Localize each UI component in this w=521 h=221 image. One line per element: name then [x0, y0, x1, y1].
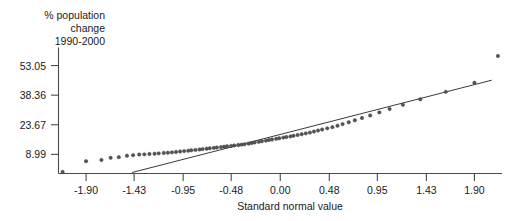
data-point [201, 147, 204, 150]
data-point [233, 144, 236, 147]
data-point [388, 107, 391, 110]
data-points [61, 54, 500, 173]
data-point [320, 128, 323, 131]
data-point [274, 137, 277, 140]
data-point [250, 141, 253, 144]
normal-probability-plot: 8.9923.6738.3653.05 -1.90-1.43-0.95-0.48… [0, 0, 521, 221]
data-point [174, 150, 177, 153]
x-axis-ticks [86, 174, 474, 182]
y-tick-label: 8.99 [26, 148, 47, 160]
x-tick-label: 0.00 [270, 184, 291, 196]
data-point [182, 149, 185, 152]
data-point [347, 121, 350, 124]
data-point [190, 149, 193, 152]
x-tick-label: 0.95 [367, 184, 388, 196]
data-point [125, 154, 128, 157]
data-point [117, 155, 120, 158]
data-point [162, 151, 165, 154]
y-axis-title-line-3: 1990-2000 [55, 35, 105, 47]
x-tick-label: 1.90 [464, 184, 485, 196]
x-tick-label: 0.48 [319, 184, 340, 196]
data-point [109, 156, 112, 159]
data-point [368, 114, 371, 117]
data-point [100, 158, 103, 161]
x-tick-label: -0.95 [171, 184, 195, 196]
data-point [84, 160, 87, 163]
x-tick-label: -1.43 [122, 184, 146, 196]
data-point [270, 138, 273, 141]
data-point [331, 125, 334, 128]
data-point [308, 131, 311, 134]
data-point [336, 124, 339, 127]
data-point [282, 136, 285, 139]
data-point [278, 137, 281, 140]
y-tick-label: 53.05 [20, 60, 46, 72]
reference-line-path [132, 80, 492, 172]
x-axis-title: Standard normal value [237, 200, 343, 212]
data-point [153, 152, 156, 155]
data-point [257, 140, 260, 143]
data-point [289, 135, 292, 138]
data-point [304, 132, 307, 135]
data-point [143, 153, 146, 156]
y-axis-ticks [51, 66, 59, 155]
y-axis-title-line-1: % population [44, 9, 105, 21]
x-tick-label: -0.48 [219, 184, 243, 196]
data-point [316, 129, 319, 132]
data-point [264, 139, 267, 142]
data-point [300, 132, 303, 135]
reference-line [132, 80, 492, 172]
data-point [178, 150, 181, 153]
data-point [138, 153, 141, 156]
y-axis-tick-labels: 8.9923.6738.3653.05 [20, 60, 46, 161]
data-point [247, 142, 250, 145]
data-point [285, 135, 288, 138]
data-point [267, 138, 270, 141]
data-point [194, 148, 197, 151]
data-point [148, 152, 151, 155]
data-point [326, 127, 329, 130]
data-point [225, 145, 228, 148]
data-point [341, 122, 344, 125]
data-point [496, 54, 499, 57]
data-point [208, 147, 211, 150]
data-point [166, 151, 169, 154]
data-point [312, 130, 315, 133]
data-point [353, 119, 356, 122]
data-point [61, 170, 64, 173]
data-point [401, 103, 404, 106]
data-point [378, 111, 381, 114]
chart-canvas: 8.9923.6738.3653.05 -1.90-1.43-0.95-0.48… [0, 0, 521, 221]
y-tick-label: 23.67 [20, 119, 46, 131]
y-tick-label: 38.36 [20, 89, 46, 101]
data-point [157, 152, 160, 155]
data-point [260, 140, 263, 143]
data-point [131, 153, 134, 156]
data-point [215, 146, 218, 149]
data-point [419, 98, 422, 101]
data-point [296, 133, 299, 136]
data-point [253, 141, 256, 144]
data-point [360, 116, 363, 119]
data-point [243, 143, 246, 146]
data-point [444, 90, 447, 93]
data-point [473, 81, 476, 84]
data-point [170, 151, 173, 154]
x-tick-label: -1.90 [74, 184, 98, 196]
data-point [292, 134, 295, 137]
x-tick-label: 1.43 [416, 184, 437, 196]
y-axis-title: % population change 1990-2000 [44, 9, 105, 47]
axes-group [59, 48, 503, 174]
y-axis-title-line-2: change [71, 22, 106, 34]
x-axis-tick-labels: -1.90-1.43-0.95-0.480.000.480.951.431.90 [74, 184, 485, 196]
